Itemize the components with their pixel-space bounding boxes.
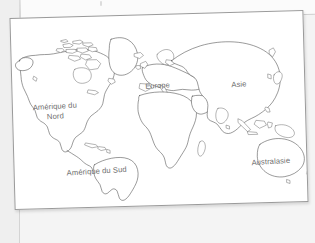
- africa-outline: [138, 91, 198, 169]
- cuba-outline: [85, 143, 98, 148]
- korea-outline: [268, 74, 271, 79]
- hispaniola-outline: [98, 146, 106, 150]
- new-guinea-outline: [275, 124, 295, 138]
- faint-pencil-mark: [100, 1, 102, 6]
- arctic-island-2: [73, 40, 83, 44]
- label-asia: Asie: [231, 79, 247, 89]
- borneo-outline: [254, 120, 266, 128]
- map-sheet[interactable]: Amérique du Nord Amérique du Sud Europe …: [9, 10, 308, 210]
- ireland-outline: [136, 65, 141, 69]
- label-north-america-line2: Nord: [47, 111, 64, 121]
- worksheet-scene: Amérique du Nord Amérique du Sud Europe …: [0, 0, 315, 243]
- arctic-island-1: [63, 43, 73, 47]
- label-north-america: Amérique du Nord: [32, 100, 77, 122]
- arctic-island-10: [61, 39, 68, 42]
- lesser-antilles: [107, 149, 110, 153]
- tasmania-outline: [287, 179, 290, 183]
- madagascar-outline: [197, 141, 205, 156]
- label-europe: Europe: [145, 80, 170, 90]
- sulawesi-outline: [267, 122, 272, 128]
- arctic-island-3: [83, 43, 93, 47]
- hudson-bay: [73, 67, 91, 83]
- south-america-outline: [93, 157, 139, 201]
- philippines-outline: [265, 107, 270, 112]
- new-zealand-south: [307, 171, 308, 179]
- java-outline: [248, 131, 258, 134]
- greenland-outline: [108, 37, 138, 75]
- map-canvas: Amérique du Nord Amérique du Sud Europe …: [10, 11, 307, 209]
